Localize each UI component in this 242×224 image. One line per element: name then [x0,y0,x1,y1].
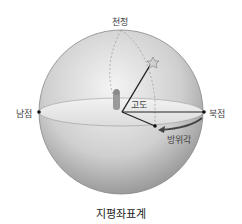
celestial-sphere-diagram [0,0,242,224]
azimuth-label: 방위각 [167,133,191,146]
zenith-label: 천정 [112,15,128,28]
north-point-label: 북점 [209,107,225,120]
south-point-label: 남점 [16,107,32,120]
diagram-caption: 지평좌표계 [0,205,242,221]
altitude-label: 고도 [131,98,147,111]
